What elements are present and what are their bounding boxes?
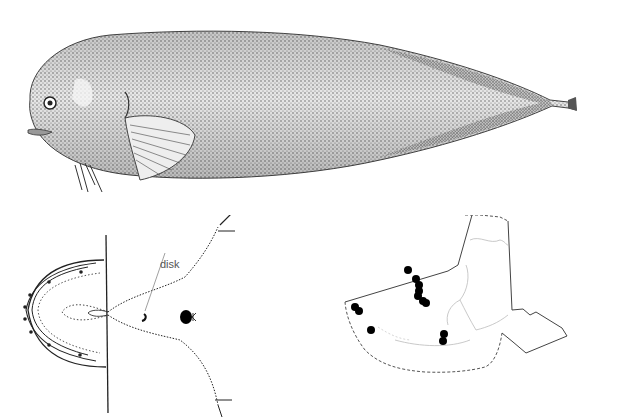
anus-mark xyxy=(180,310,192,324)
alaska-map xyxy=(330,215,627,417)
record-point xyxy=(440,330,448,338)
record-point xyxy=(439,337,447,345)
disk-marker xyxy=(142,314,146,321)
ventral-view-diagram: disk xyxy=(0,215,290,417)
ventral-drawing xyxy=(0,215,290,417)
record-point xyxy=(422,299,430,307)
disk-label: disk xyxy=(160,258,180,270)
distribution-map xyxy=(330,215,627,417)
record-point xyxy=(404,266,412,274)
record-point xyxy=(367,326,375,334)
fish-lateral-illustration xyxy=(0,0,627,215)
record-points xyxy=(351,266,448,345)
fish-drawing xyxy=(0,0,627,215)
record-point xyxy=(355,307,363,315)
